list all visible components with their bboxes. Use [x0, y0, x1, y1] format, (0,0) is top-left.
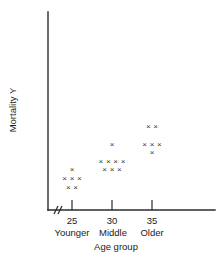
- data-point-marker: ×: [73, 183, 78, 192]
- data-point-marker: ×: [117, 165, 122, 174]
- data-point-marker: ×: [153, 122, 158, 131]
- data-point-marker: ×: [110, 140, 115, 149]
- x-tick-label-30: 30: [107, 215, 118, 226]
- y-axis-title: Mortality Y: [7, 87, 18, 132]
- x-group-label-older: Older: [140, 227, 163, 238]
- x-group-label-younger: Younger: [54, 227, 89, 238]
- data-point-marker: ×: [146, 122, 151, 131]
- data-point-marker: ×: [102, 165, 107, 174]
- x-tick-label-25: 25: [67, 215, 78, 226]
- chart-figure: 25 30 35 Younger Middle Older Age group …: [0, 0, 221, 253]
- data-point-marker: ×: [110, 165, 115, 174]
- data-point-marker: ×: [142, 140, 147, 149]
- x-group-label-middle: Middle: [99, 227, 127, 238]
- scatter-plot: 25 30 35 Younger Middle Older Age group …: [0, 0, 221, 253]
- data-point-marker: ×: [66, 183, 71, 192]
- data-point-marker: ×: [150, 148, 155, 157]
- x-axis-title: Age group: [94, 241, 138, 252]
- data-point-marker: ×: [157, 140, 162, 149]
- x-tick-label-35: 35: [147, 215, 158, 226]
